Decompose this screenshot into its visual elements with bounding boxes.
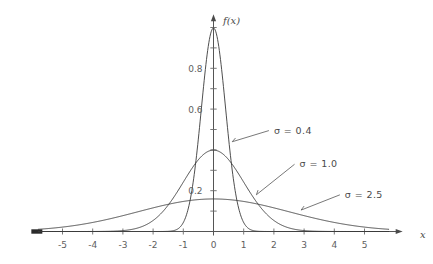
x-tick-label: 3 bbox=[301, 240, 307, 250]
x-axis-label: x bbox=[420, 229, 426, 240]
annotation-sigma-0-4: σ = 0.4 bbox=[274, 125, 312, 136]
chart-canvas: -5-4-3-2-1012345 0.20.60.8 f(x) x σ = 0.… bbox=[0, 0, 433, 264]
y-tick-labels: 0.20.60.8 bbox=[188, 64, 203, 196]
x-tick-labels: -5-4-3-2-1012345 bbox=[58, 240, 367, 250]
y-tick-label: 0.8 bbox=[188, 64, 203, 74]
leader-line-sigma-2.5 bbox=[301, 195, 340, 210]
axes-group bbox=[31, 14, 402, 235]
x-tick-label: 1 bbox=[241, 240, 247, 250]
x-axis-arrow-icon bbox=[396, 229, 403, 234]
x-tick-label: 0 bbox=[211, 240, 217, 250]
normal-distribution-chart: -5-4-3-2-1012345 0.20.60.8 f(x) x σ = 0.… bbox=[0, 0, 433, 264]
x-tick-label: -2 bbox=[149, 240, 158, 250]
y-axis-label: f(x) bbox=[222, 15, 240, 26]
x-tick-label: -1 bbox=[179, 240, 188, 250]
annotation-sigma-1-0: σ = 1.0 bbox=[300, 158, 338, 169]
leader-lines-group bbox=[232, 131, 340, 211]
x-tick-label: 4 bbox=[331, 240, 337, 250]
leader-line-sigma-1.0 bbox=[256, 164, 294, 195]
x-tick-label: 5 bbox=[362, 240, 368, 250]
y-tick-label: 0.2 bbox=[188, 186, 202, 196]
x-tick-label: -3 bbox=[118, 240, 127, 250]
y-tick-label: 0.6 bbox=[188, 105, 203, 115]
annotation-sigma-2-5: σ = 2.5 bbox=[345, 189, 383, 200]
x-tick-label: -4 bbox=[88, 240, 97, 250]
x-tick-label: -5 bbox=[58, 240, 67, 250]
x-tick-label: 2 bbox=[271, 240, 277, 250]
y-axis-arrow-icon bbox=[211, 14, 216, 21]
leader-line-sigma-0.4 bbox=[232, 131, 269, 142]
